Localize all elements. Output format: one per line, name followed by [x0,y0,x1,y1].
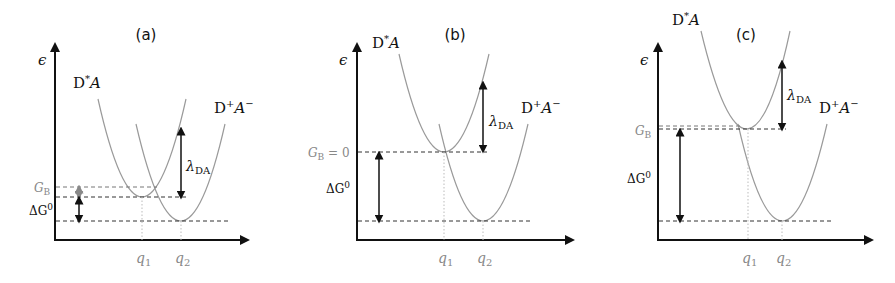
reorganization-label: λDA [185,158,211,176]
q2-label: q2 [477,250,492,268]
panel-a-label: (a) [136,26,157,44]
q2-label: q2 [175,250,190,268]
reactant-parabola [701,31,790,129]
product-state-label: D+A− [819,98,859,117]
q2-label: q2 [776,250,791,268]
reactant-state-label: D*A [372,33,400,52]
y-axis-label: ϵ [339,51,348,69]
barrier-label: GB [635,124,652,140]
driving-force-label: ΔG0 [326,180,350,196]
panel-c-label: (c) [736,26,756,44]
q1-label: q1 [742,250,757,268]
reactant-state-label: D*A [73,73,101,92]
y-axis-label: ϵ [640,51,649,69]
panel-b: (b) ϵ D*A D+A− GB = 0 ΔG0 λDA q1 q2 [308,26,573,268]
panel-a: (a) ϵ D*A D+A− GB ΔG0 λDA q1 q2 [29,26,254,268]
y-axis-label: ϵ [38,51,47,69]
panel-b-label: (b) [444,26,465,44]
q1-label: q1 [438,250,453,268]
barrier-label: GB [34,181,51,197]
driving-force-label: ΔG0 [29,202,53,218]
product-state-label: D+A− [214,98,254,117]
barrier-label: GB = 0 [308,146,350,162]
reactant-state-label: D*A [672,10,700,29]
marcus-diagram: (a) ϵ D*A D+A− GB ΔG0 λDA q1 q2 (b) ϵ [0,0,895,283]
reorganization-label: λDA [786,87,812,105]
product-state-label: D+A− [521,98,561,117]
reactant-parabola [399,54,489,152]
reorganization-label: λDA [488,113,514,131]
driving-force-label: ΔG0 [627,170,651,186]
product-parabola [738,124,827,221]
q1-label: q1 [136,250,151,268]
panel-c: (c) ϵ D*A D+A− GB ΔG0 λDA q1 q2 [627,10,872,268]
